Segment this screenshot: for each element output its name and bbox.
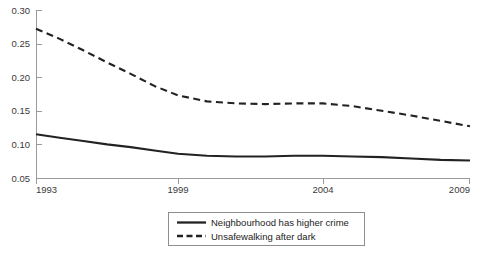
y-tick-label-1: 0.25 <box>12 38 31 49</box>
legend: Neighbourhood has higher crime Unsafewal… <box>169 213 365 246</box>
line-chart: 0.30 0.25 0.20 0.15 0.10 0.05 1993 1999 … <box>0 0 491 257</box>
y-tick-label-0: 0.30 <box>12 5 31 16</box>
y-tick-label-4: 0.10 <box>12 139 31 150</box>
x-tick-label-1993: 1993 <box>36 184 57 195</box>
x-tick-label-1999: 1999 <box>167 184 188 195</box>
series-line-neighbourhood-has-higher-crime <box>36 134 470 160</box>
y-tick-label-3: 0.15 <box>12 105 31 116</box>
legend-label-1: Unsafewalking after dark <box>211 231 316 242</box>
x-tick-label-2004: 2004 <box>312 184 333 195</box>
y-tick-label-5: 0.05 <box>12 173 31 184</box>
series-line-unsafewalking-after-dark <box>36 29 470 126</box>
chart-svg: 0.30 0.25 0.20 0.15 0.10 0.05 1993 1999 … <box>0 0 491 257</box>
y-tick-label-2: 0.20 <box>12 72 31 83</box>
legend-label-0: Neighbourhood has higher crime <box>211 217 349 228</box>
x-tick-label-2009: 2009 <box>449 184 470 195</box>
